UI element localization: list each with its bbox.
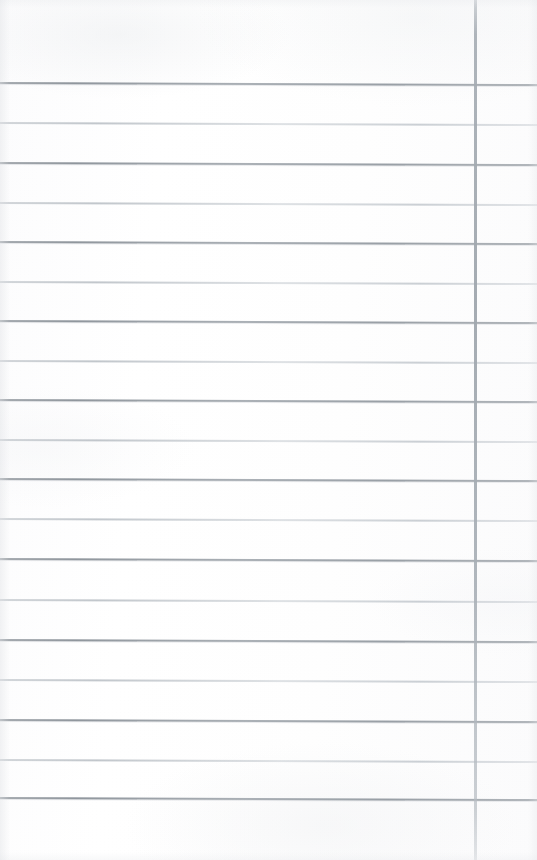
writing-area[interactable] xyxy=(0,0,474,860)
scanned-page: Blank ruled notebook page Scanned blank … xyxy=(0,0,537,860)
margin-rule xyxy=(474,0,477,860)
margin-area[interactable] xyxy=(477,0,537,860)
